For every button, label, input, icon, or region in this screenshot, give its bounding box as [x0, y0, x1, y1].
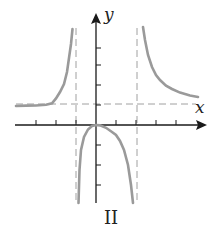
y-axis-label: y [104, 4, 114, 24]
left-branch [16, 29, 73, 106]
asymptotes [16, 28, 196, 203]
curves [16, 27, 198, 203]
function-graph [0, 0, 222, 239]
figure-caption: II [0, 207, 222, 228]
x-axis-label: x [195, 97, 205, 117]
right-branch [143, 27, 198, 97]
y-ticks [96, 48, 101, 185]
x-ticks [36, 120, 176, 125]
axes [15, 13, 207, 203]
middle-branch [79, 125, 134, 203]
